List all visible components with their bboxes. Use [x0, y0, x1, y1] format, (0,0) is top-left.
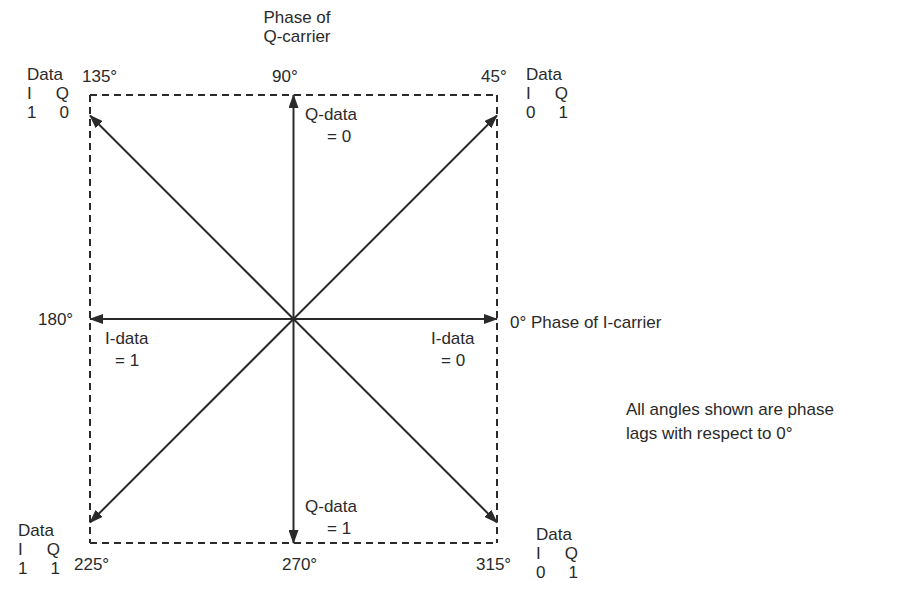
- qpsk-phasor-diagram: [0, 0, 907, 600]
- data-block-135: Data IQ 10: [27, 65, 69, 122]
- phase-lag-note-line1: All angles shown are phase: [626, 398, 834, 422]
- data-block-title: Data: [526, 65, 568, 84]
- i-value: 1: [27, 103, 36, 122]
- angle-label-225: 225°: [74, 555, 109, 574]
- i-data-1-line1: I-data: [105, 328, 148, 350]
- q-header: Q: [56, 84, 69, 103]
- i-header: I: [27, 84, 32, 103]
- i-header: I: [18, 540, 23, 559]
- angle-label-315: 315°: [476, 555, 511, 574]
- i-value: 0: [526, 103, 535, 122]
- phase-lag-note: All angles shown are phase lags with res…: [626, 398, 834, 446]
- q-carrier-label-line2: Q-carrier: [252, 27, 342, 46]
- q-data-1-line2: = 1: [305, 518, 357, 540]
- i-value: 0: [536, 563, 545, 582]
- data-block-225: Data IQ 11: [18, 521, 60, 578]
- i-data-1-label: I-data = 1: [105, 328, 148, 372]
- i-data-0-line1: I-data: [431, 328, 474, 350]
- i-data-1-line2: = 1: [105, 350, 148, 372]
- q-value: 1: [559, 103, 568, 122]
- q-value: 1: [569, 563, 578, 582]
- q-value: 1: [51, 559, 60, 578]
- q-value: 0: [60, 103, 69, 122]
- q-data-1-line1: Q-data: [305, 496, 357, 518]
- angle-label-45: 45°: [481, 67, 507, 86]
- i-data-0-line2: = 0: [431, 350, 474, 372]
- i-carrier-label: 0° Phase of I-carrier: [510, 313, 661, 332]
- i-value: 1: [18, 559, 27, 578]
- q-header: Q: [47, 540, 60, 559]
- q-header: Q: [565, 544, 578, 563]
- data-block-title: Data: [536, 525, 578, 544]
- q-header: Q: [555, 84, 568, 103]
- angle-label-135: 135°: [82, 67, 117, 86]
- i-header: I: [536, 544, 541, 563]
- q-data-0-label: Q-data = 0: [305, 104, 357, 148]
- angle-label-180: 180°: [38, 310, 73, 329]
- phasor-group: [90, 95, 497, 543]
- i-header: I: [526, 84, 531, 103]
- data-block-title: Data: [18, 521, 60, 540]
- phase-lag-note-line2: lags with respect to 0°: [626, 422, 834, 446]
- phasor-135-arrow: [90, 116, 294, 320]
- data-block-title: Data: [27, 65, 69, 84]
- q-carrier-label-line1: Phase of: [252, 8, 342, 27]
- angle-label-90: 90°: [272, 67, 298, 86]
- q-data-0-line1: Q-data: [305, 104, 357, 126]
- data-block-315: Data IQ 01: [536, 525, 578, 582]
- q-data-1-label: Q-data = 1: [305, 496, 357, 540]
- q-data-0-line2: = 0: [305, 126, 357, 148]
- angle-label-270: 270°: [282, 555, 317, 574]
- data-block-45: Data IQ 01: [526, 65, 568, 122]
- q-carrier-label: Phase of Q-carrier: [252, 8, 342, 46]
- i-data-0-label: I-data = 0: [431, 328, 474, 372]
